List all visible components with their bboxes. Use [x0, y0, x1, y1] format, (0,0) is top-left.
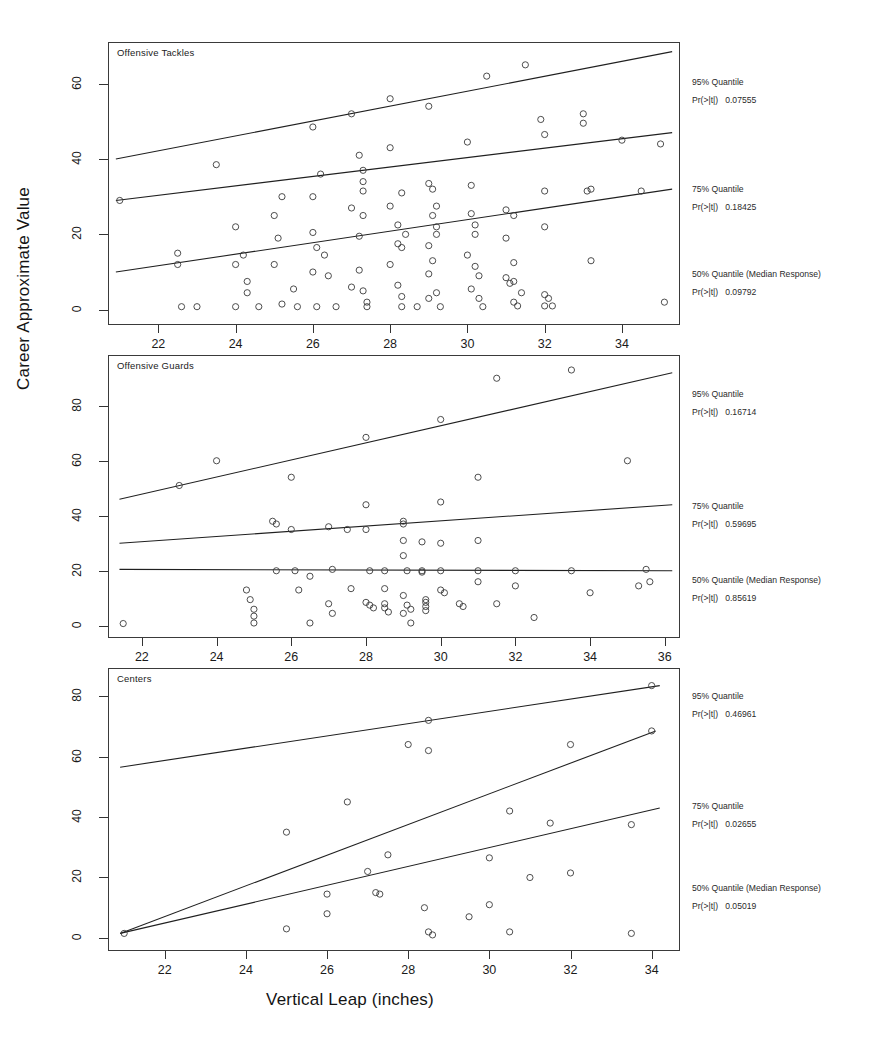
y-axis-tick — [99, 938, 108, 939]
data-point — [363, 526, 369, 532]
data-point — [399, 293, 405, 299]
data-point — [213, 162, 219, 168]
quantile-fit-line-95 — [119, 373, 672, 500]
data-point — [426, 295, 432, 301]
data-point — [522, 62, 528, 68]
data-point — [503, 235, 509, 241]
data-point — [588, 258, 594, 264]
data-point — [426, 180, 432, 186]
x-axis-tick — [217, 638, 218, 646]
data-point — [233, 224, 239, 230]
data-point — [661, 299, 667, 305]
data-point — [294, 304, 300, 310]
y-axis-tick-label: 20 — [70, 863, 84, 889]
x-axis-tick-label: 26 — [313, 963, 341, 977]
y-axis-tick — [99, 757, 108, 758]
data-point — [385, 852, 391, 858]
data-point — [325, 273, 331, 279]
data-point — [273, 568, 279, 574]
annotation-label: 75% Quantile — [692, 502, 756, 511]
y-axis-tick-label: 40 — [70, 803, 84, 829]
data-point — [429, 932, 435, 938]
data-point — [271, 261, 277, 267]
y-axis-tick — [99, 234, 108, 235]
y-axis-tick-label: 60 — [70, 743, 84, 769]
data-point — [549, 303, 555, 309]
y-axis-tick-label: 40 — [70, 502, 84, 528]
x-axis-tick-label: 34 — [576, 650, 604, 664]
annotation-value: 0.02655 — [725, 819, 756, 829]
data-point — [466, 914, 472, 920]
data-point — [279, 194, 285, 200]
data-point — [233, 304, 239, 310]
data-point — [251, 613, 257, 619]
data-point — [511, 260, 517, 266]
x-axis-tick — [489, 951, 490, 959]
data-point — [472, 222, 478, 228]
data-point — [363, 502, 369, 508]
x-axis-tick-label: 28 — [376, 337, 404, 351]
data-point — [649, 728, 655, 734]
data-point — [438, 568, 444, 574]
y-axis-tick-label: 0 — [70, 924, 84, 950]
scatter-canvas — [108, 668, 680, 951]
data-point — [472, 263, 478, 269]
data-point — [382, 586, 388, 592]
data-point — [542, 292, 548, 298]
x-axis-tick-label: 30 — [427, 650, 455, 664]
y-axis-tick — [99, 406, 108, 407]
data-point — [360, 179, 366, 185]
x-axis-tick-label: 26 — [299, 337, 327, 351]
x-axis-tick-label: 32 — [501, 650, 529, 664]
x-axis-tick-label: 30 — [453, 337, 481, 351]
x-axis-tick — [545, 325, 546, 333]
y-axis-tick — [99, 159, 108, 160]
data-point — [568, 367, 574, 373]
data-point — [433, 290, 439, 296]
data-point — [365, 868, 371, 874]
data-point — [333, 304, 339, 310]
annotation-value: 0.07555 — [725, 95, 756, 105]
data-point — [468, 286, 474, 292]
x-axis-tick-label: 36 — [651, 650, 679, 664]
annotation-pvalue-row: Pr(>|t|)0.09792 — [692, 288, 821, 297]
y-axis-tick — [99, 461, 108, 462]
data-point — [438, 499, 444, 505]
data-point — [433, 231, 439, 237]
x-axis-tick-label: 22 — [128, 650, 156, 664]
data-point — [503, 275, 509, 281]
data-point — [545, 295, 551, 301]
quantile-fit-line-75 — [120, 731, 656, 933]
x-axis-tick-label: 26 — [277, 650, 305, 664]
x-axis-tick-label: 22 — [151, 963, 179, 977]
annotation-stat: Pr(>|t|) — [692, 519, 718, 529]
data-point — [290, 286, 296, 292]
data-point — [402, 231, 408, 237]
annotation-pvalue-row: Pr(>|t|)0.18425 — [692, 203, 756, 212]
data-point — [356, 152, 362, 158]
annotation-95-panel-2: 95% Quantile Pr(>|t|)0.46961 — [692, 692, 756, 718]
annotation-50-panel-0: 50% Quantile (Median Response) Pr(>|t|)0… — [692, 270, 821, 296]
annotation-stat: Pr(>|t|) — [692, 202, 718, 212]
data-point — [318, 171, 324, 177]
data-point — [430, 212, 436, 218]
data-point — [580, 120, 586, 126]
data-point — [283, 829, 289, 835]
x-axis-tick-label: 28 — [394, 963, 422, 977]
data-point — [438, 540, 444, 546]
x-axis-tick-label: 30 — [475, 963, 503, 977]
data-point — [430, 258, 436, 264]
data-point — [433, 203, 439, 209]
annotation-label: 95% Quantile — [692, 390, 756, 399]
annotation-50-panel-1: 50% Quantile (Median Response) Pr(>|t|)0… — [692, 576, 821, 602]
data-point — [348, 284, 354, 290]
y-axis-tick-label: 60 — [70, 447, 84, 473]
data-point — [194, 304, 200, 310]
data-point — [426, 103, 432, 109]
data-point — [643, 566, 649, 572]
annotation-stat: Pr(>|t|) — [692, 95, 718, 105]
data-point — [421, 905, 427, 911]
data-point — [377, 891, 383, 897]
data-point — [511, 299, 517, 305]
x-axis-tick — [571, 951, 572, 959]
